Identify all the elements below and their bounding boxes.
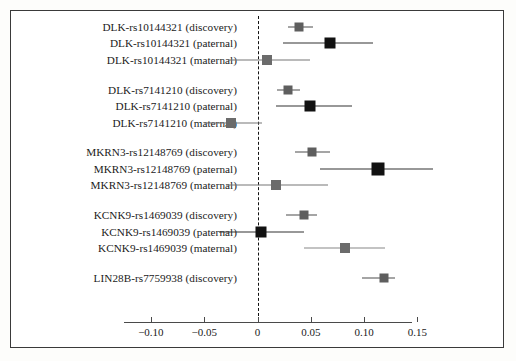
x-axis-tick-label: 0.05: [301, 326, 320, 338]
row-label: DLK-rs10144321 (paternal): [0, 37, 237, 49]
row-label: KCNK9-rs1469039 (maternal): [0, 242, 237, 254]
row-label: MKRN3-rs12148769 (paternal): [0, 163, 237, 175]
point-estimate-marker: [255, 226, 266, 237]
x-axis-tick: [311, 317, 312, 322]
point-estimate-marker: [340, 243, 350, 253]
point-estimate-marker: [324, 38, 335, 49]
row-label: DLK-rs7141210 (discovery): [0, 84, 237, 96]
row-label: KCNK9-rs1469039 (paternal): [0, 226, 237, 238]
forest-plot-figure: DLK-rs10144321 (discovery)DLK-rs10144321…: [0, 0, 516, 361]
row-label: DLK-rs10144321 (maternal): [0, 54, 237, 66]
point-estimate-marker: [284, 85, 293, 94]
x-axis-tick-label: −0.05: [191, 326, 216, 338]
row-label: LIN28B-rs7759938 (discovery): [0, 272, 237, 284]
x-axis-tick: [204, 317, 205, 322]
plot-area: DLK-rs10144321 (discovery)DLK-rs10144321…: [0, 0, 516, 361]
row-label: MKRN3-rs12148769 (maternal): [0, 179, 237, 191]
x-axis-tick: [258, 317, 259, 322]
x-axis-line: [124, 322, 412, 323]
point-estimate-marker: [300, 211, 309, 220]
point-estimate-marker: [295, 23, 304, 32]
point-estimate-marker: [262, 55, 272, 65]
point-estimate-marker: [371, 162, 384, 175]
x-axis-tick-label: 0.10: [354, 326, 373, 338]
x-axis-tick-label: 0: [255, 326, 261, 338]
row-label: MKRN3-rs12148769 (discovery): [0, 146, 237, 158]
point-estimate-marker: [226, 118, 236, 128]
point-estimate-marker: [304, 101, 315, 112]
row-label: DLK-rs7141210 (maternal): [0, 117, 237, 129]
point-estimate-marker: [307, 148, 316, 157]
confidence-interval-line: [362, 277, 395, 278]
row-label: DLK-rs7141210 (paternal): [0, 100, 237, 112]
x-axis-tick-label: 0.15: [408, 326, 427, 338]
point-estimate-marker: [271, 180, 281, 190]
x-axis-tick: [151, 317, 152, 322]
zero-reference-line: [258, 16, 259, 316]
x-axis-tick: [364, 317, 365, 322]
row-label: KCNK9-rs1469039 (discovery): [0, 209, 237, 221]
point-estimate-marker: [380, 273, 389, 282]
x-axis-tick-label: −0.10: [138, 326, 163, 338]
x-axis-tick: [417, 317, 418, 322]
row-label: DLK-rs10144321 (discovery): [0, 21, 237, 33]
